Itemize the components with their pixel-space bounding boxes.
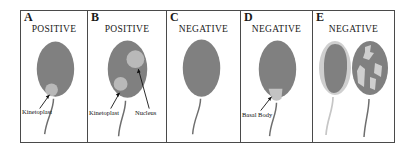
kinetoplast-organelle: [114, 77, 128, 91]
kinetoplast-organelle: [45, 83, 58, 96]
panel-c-cell-diagram: [167, 11, 240, 142]
panel-e-cell-diagram: [313, 11, 394, 142]
panel-d-cell-diagram: [241, 11, 312, 142]
flagellum: [193, 99, 201, 135]
annotation-nucleus: Nucleus: [135, 109, 156, 116]
kinetoplast-arrowhead: [46, 95, 50, 99]
figure-root: A POSITIVE Kinetoplast B POSITIVE: [0, 0, 413, 154]
flagellum-right: [364, 99, 369, 137]
panel-c: C NEGATIVE: [167, 11, 241, 142]
light-patch-lower-right: [370, 77, 376, 90]
flagellum: [45, 99, 54, 134]
cell-body: [183, 40, 220, 97]
panel-e: E NEGATIVE: [313, 11, 394, 142]
annotation-kinetoplast: Kinetoplast: [22, 108, 52, 115]
panel-b-cell-diagram: [88, 11, 166, 142]
panel-b: B POSITIVE Kinetoplast Nucleus: [88, 11, 167, 142]
flagellum: [119, 101, 126, 137]
nucleus-organelle: [127, 50, 145, 68]
panel-d: D NEGATIVE Basal Body: [241, 11, 313, 142]
panel-a: A POSITIVE Kinetoplast: [21, 11, 88, 142]
cell-body: [108, 40, 147, 97]
panel-a-cell-diagram: [21, 11, 87, 142]
flagellum-left: [326, 97, 333, 135]
annotation-kinetoplast: Kinetoplast: [89, 109, 119, 116]
flagellum: [270, 103, 277, 137]
annotation-basal-body: Basal Body: [242, 111, 272, 118]
panel-frame: A POSITIVE Kinetoplast B POSITIVE: [20, 10, 395, 143]
